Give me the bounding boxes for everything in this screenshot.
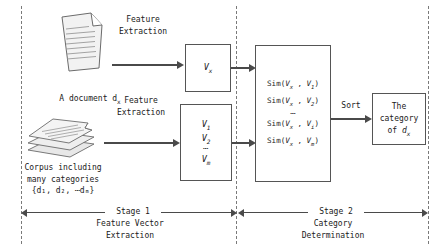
sim-row-4-right-sub: m [311, 140, 314, 146]
stage-2-subtitle-line1: Category [272, 218, 394, 230]
stage-divider-right [428, 6, 429, 244]
stage-1-name: Stage 1 [105, 206, 161, 218]
arrow-vlist-to-sim [232, 139, 256, 147]
sim-fn-label: Sim [267, 79, 281, 88]
corpus-label-line2: many categories [6, 174, 120, 186]
feature-extraction-top-label: Feature Extraction [104, 14, 182, 37]
sim-row-3-right-sub: i [311, 123, 314, 129]
arrow-vx-to-sim [231, 64, 256, 72]
result-line3-sub: x [407, 129, 411, 136]
feature-extraction-bottom-label: Feature Extraction [102, 95, 180, 118]
arrow-corpus-to-vlist [104, 139, 180, 147]
feature-extraction-top-line1: Feature [104, 14, 182, 26]
vector-list-box: V1 V2 ⋯ Vm [180, 104, 232, 181]
vx-symbol-sub: x [209, 67, 213, 74]
arrow-document-to-vx [112, 61, 184, 69]
vlist-item-1-sub: 2 [207, 137, 211, 144]
vector-vx-symbol: Vx [204, 61, 213, 75]
similarity-row: Sim(Vx , V1) [267, 79, 319, 91]
stage-2-subtitle-line2: Determination [272, 230, 394, 242]
feature-extraction-bottom-line2: Extraction [102, 107, 180, 119]
diagram-canvas: A document dx Corpus including many cate… [0, 0, 447, 249]
stage-2-name: Stage 2 [308, 206, 364, 218]
result-category-box: The category of dx [372, 93, 426, 145]
feature-extraction-bottom-line1: Feature [102, 95, 180, 107]
vector-list-ellipsis: ⋯ [203, 145, 208, 153]
result-line3-prefix: of [388, 126, 398, 135]
corpus-label-line1: Corpus including [6, 162, 120, 174]
sim-row-0-right-sub: 1 [311, 84, 314, 90]
sim-fn-label: Sim [267, 136, 281, 145]
stacked-documents-icon [26, 112, 98, 162]
similarity-row: Sim(Vx , Vm) [267, 136, 319, 148]
result-line3: of dx [388, 125, 411, 138]
vector-list-item: Vm [202, 153, 211, 167]
vector-list-item: V2 [202, 132, 211, 146]
sim-row-4-left-sub: x [290, 140, 293, 146]
vector-list-item: V1 [202, 118, 211, 132]
document-icon [58, 11, 106, 73]
feature-extraction-top-line2: Extraction [104, 26, 182, 38]
stage-1-subtitle-line1: Feature Vector [69, 218, 191, 230]
vlist-item-0-sub: 1 [207, 123, 211, 130]
similarity-ellipsis: ⋯ [291, 111, 296, 117]
vlist-item-3-sub: m [207, 159, 211, 166]
sort-label: Sort [330, 100, 372, 112]
sim-row-1-left-sub: x [290, 101, 293, 107]
result-line2: category [380, 113, 419, 125]
similarity-row: Sim(Vx , Vi) [267, 119, 319, 131]
sim-row-3-left-sub: x [290, 123, 293, 129]
sim-fn-label: Sim [267, 119, 281, 128]
vector-vx-box: Vx [185, 44, 231, 92]
sim-fn-label: Sim [267, 96, 281, 105]
corpus-label: Corpus including many categories {d₁, d₂… [6, 162, 120, 197]
similarity-box: Sim(Vx , V1) Sim(Vx , V2) ⋯ Sim(Vx , Vi)… [255, 45, 331, 182]
arrow-sim-to-category [331, 115, 373, 123]
similarity-row: Sim(Vx , V2) [267, 96, 319, 108]
sim-row-0-left-sub: x [290, 84, 293, 90]
sim-row-1-right-sub: 2 [311, 101, 314, 107]
corpus-set-notation: {d₁, d₂, ⋯dₘ} [6, 185, 120, 197]
stage-1-subtitle-line2: Extraction [69, 230, 191, 242]
result-line1: The [392, 101, 406, 113]
